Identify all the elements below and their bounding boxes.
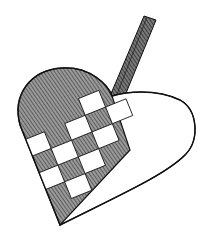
- handle-strap: [110, 16, 156, 98]
- woven-heart-illustration: [0, 0, 207, 240]
